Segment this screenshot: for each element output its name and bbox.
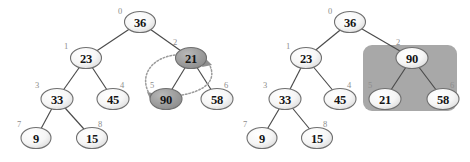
- node-index: 3: [263, 80, 267, 90]
- panel-before-swap: 36 0 23 1 21 2 33 3 45 4: [17, 6, 233, 149]
- node-value: 36: [344, 16, 356, 30]
- node-9[interactable]: 9 7: [17, 119, 51, 149]
- node-index: 6: [224, 80, 228, 90]
- node-value: 58: [211, 93, 223, 107]
- node-value: 33: [51, 93, 63, 107]
- node-33[interactable]: 33 3: [263, 80, 301, 110]
- node-90-highlighted[interactable]: 90 5: [150, 80, 182, 110]
- node-15[interactable]: 15 8: [77, 119, 108, 149]
- node-index: 0: [328, 6, 332, 16]
- node-value: 9: [259, 132, 265, 146]
- node-index: 7: [243, 119, 247, 129]
- node-value: 45: [334, 93, 346, 107]
- node-value: 33: [279, 93, 291, 107]
- node-23[interactable]: 23 1: [286, 41, 322, 69]
- node-value: 90: [406, 52, 418, 66]
- node-index: 1: [286, 41, 290, 51]
- node-21-highlighted[interactable]: 21 2: [173, 37, 207, 69]
- node-value: 58: [437, 93, 449, 107]
- node-value: 21: [379, 93, 391, 107]
- node-index: 2: [173, 37, 177, 47]
- node-90[interactable]: 90 2: [396, 37, 428, 69]
- node-9[interactable]: 9 7: [243, 119, 277, 149]
- node-value: 45: [107, 93, 119, 107]
- node-23[interactable]: 23 1: [64, 41, 102, 69]
- node-index: 7: [17, 119, 21, 129]
- node-value: 15: [311, 132, 323, 146]
- binary-tree-swap-figure: 36 0 23 1 21 2 33 3 45 4: [0, 0, 470, 162]
- node-15[interactable]: 15 8: [302, 119, 333, 149]
- node-index: 5: [368, 80, 372, 90]
- node-value: 9: [33, 132, 39, 146]
- node-36[interactable]: 36 0: [328, 6, 366, 33]
- node-value: 23: [80, 52, 92, 66]
- node-index: 8: [323, 119, 327, 129]
- node-58[interactable]: 58 6: [201, 80, 233, 110]
- node-index: 1: [64, 41, 68, 51]
- node-index: 2: [396, 37, 400, 47]
- node-value: 15: [86, 132, 98, 146]
- node-index: 6: [450, 80, 454, 90]
- node-index: 3: [35, 80, 39, 90]
- node-36[interactable]: 36 0: [118, 6, 156, 33]
- node-index: 4: [347, 80, 352, 90]
- node-index: 8: [98, 119, 102, 129]
- node-value: 90: [160, 93, 172, 107]
- node-value: 36: [134, 16, 146, 30]
- tree-diagram-canvas: 36 0 23 1 21 2 33 3 45 4: [0, 0, 470, 162]
- node-value: 21: [185, 52, 197, 66]
- panel-after-swap: 36 0 23 1 90 2 33 3 45 4: [243, 6, 459, 149]
- node-45[interactable]: 45 4: [324, 80, 356, 110]
- node-index: 5: [150, 80, 154, 90]
- node-45[interactable]: 45 4: [97, 80, 129, 110]
- node-index: 4: [120, 80, 125, 90]
- node-value: 23: [300, 52, 312, 66]
- edge-group: [36, 22, 217, 138]
- node-index: 0: [118, 6, 122, 16]
